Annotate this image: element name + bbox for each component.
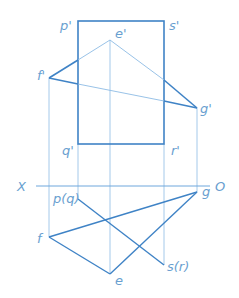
label-r-prime: r' — [171, 143, 180, 158]
label-e-prime: e' — [115, 26, 127, 41]
label-p-prime: p' — [59, 18, 72, 33]
label-e: e — [115, 273, 123, 288]
axis-label-x: X — [16, 179, 27, 194]
projection-diagram: p' s' e' f' g' q' r' X O p(q) g f s(r) e — [0, 0, 239, 298]
triangle-efg-front-view — [49, 40, 197, 108]
plane-pqrs-top-view — [78, 199, 164, 265]
label-pq: p(q) — [52, 191, 80, 206]
label-f-prime: f' — [37, 68, 45, 83]
label-q-prime: q' — [62, 143, 74, 158]
label-sr: s(r) — [167, 259, 189, 274]
label-s-prime: s' — [169, 18, 179, 33]
axis-label-o: O — [215, 179, 225, 194]
label-g: g — [202, 184, 210, 199]
label-g-prime: g' — [200, 101, 212, 116]
label-f: f — [37, 231, 44, 246]
